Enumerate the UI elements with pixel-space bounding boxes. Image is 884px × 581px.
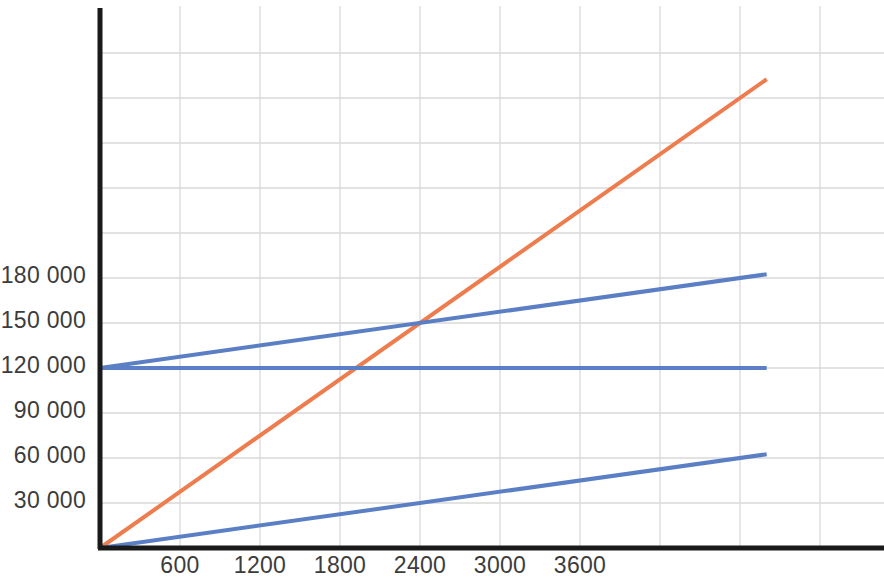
vertical-gridlines bbox=[180, 6, 820, 547]
series-blue-rising-line bbox=[100, 274, 767, 368]
y-tick-label: 150 000 bbox=[1, 307, 86, 334]
data-series-layer bbox=[100, 79, 767, 548]
series-orange-line bbox=[100, 79, 767, 548]
y-tick-label: 30 000 bbox=[14, 487, 86, 514]
y-tick-label: 180 000 bbox=[1, 262, 86, 289]
plot-area bbox=[0, 0, 884, 581]
y-tick-label: 90 000 bbox=[14, 397, 86, 424]
y-tick-label: 60 000 bbox=[14, 442, 86, 469]
line-chart: 30 00060 00090 000120 000150 000180 000 … bbox=[0, 0, 884, 581]
x-tick-label: 3600 bbox=[520, 552, 640, 579]
horizontal-gridlines bbox=[101, 53, 884, 503]
y-tick-label: 120 000 bbox=[1, 352, 86, 379]
series-blue-lower-line bbox=[100, 454, 767, 548]
